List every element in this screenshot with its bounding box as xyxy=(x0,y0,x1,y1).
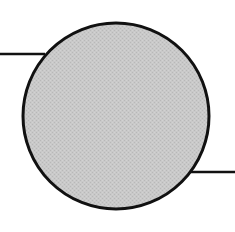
diagram-canvas xyxy=(0,0,235,232)
diagram-svg xyxy=(0,0,235,232)
node-circle xyxy=(23,23,209,209)
